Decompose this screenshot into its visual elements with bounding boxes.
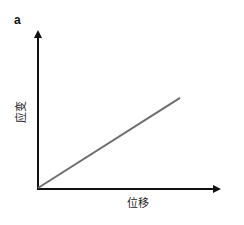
y-axis-label: 应变 xyxy=(12,101,28,123)
data-line xyxy=(38,98,180,188)
x-axis-label: 位移 xyxy=(127,194,149,210)
chart-canvas xyxy=(0,0,244,225)
